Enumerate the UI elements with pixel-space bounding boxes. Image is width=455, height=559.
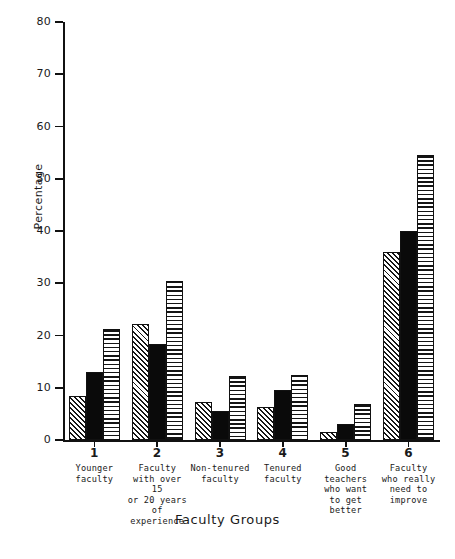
x-category-description-line: with over 15 [126,474,189,495]
x-category-description: Non-tenuredfaculty [189,463,252,484]
bar-group [132,22,183,440]
bar-group [320,22,371,440]
y-tick-label: 60 [21,121,51,132]
x-category-description-line: teachers [314,474,377,485]
x-category-description-line: who want [314,484,377,495]
x-category-label: 5Goodteacherswho wantto get better [314,446,377,516]
x-category-description: Goodteacherswho wantto get better [314,463,377,516]
y-tick-mark [55,178,63,180]
plot-area: 01020304050607080 [63,22,440,440]
bar-horizontal [166,281,183,440]
y-tick-mark [55,126,63,128]
x-category-number: 5 [314,446,377,460]
y-tick-label: 70 [21,68,51,79]
bar-horizontal [417,155,434,440]
y-tick-label: 40 [21,225,51,236]
x-category-description-line: Tenured [252,463,315,474]
bar-solid [337,424,354,440]
y-tick-label: 20 [21,330,51,341]
x-category-number: 1 [63,446,126,460]
x-category-description: Youngerfaculty [63,463,126,484]
y-tick-mark [55,230,63,232]
bar-solid [274,390,291,440]
y-tick-label: 0 [21,434,51,445]
x-category-description-line: who really [377,474,440,485]
x-category-description-line: faculty [189,474,252,485]
bar-diagonal [320,432,337,440]
bar-diagonal [383,252,400,440]
y-tick-label: 50 [21,173,51,184]
bar-group [383,22,434,440]
x-category-number: 6 [377,446,440,460]
bar-horizontal [229,376,246,440]
bar-solid [400,231,417,440]
bar-diagonal [132,324,149,440]
bar-group [195,22,246,440]
x-category-description-line: Non-tenured [189,463,252,474]
x-category-number: 2 [126,446,189,460]
y-axis-title: Percentage [32,137,45,257]
bar-diagonal [195,402,212,440]
bar-horizontal [354,404,371,440]
x-axis-title: Faculty Groups [0,512,455,527]
bar-group [69,22,120,440]
y-tick-mark [55,387,63,389]
x-category-description-line: Faculty [126,463,189,474]
x-category-description-line: need to [377,484,440,495]
y-tick-mark [55,282,63,284]
x-category-description-line: or 20 years [126,495,189,506]
x-category-label: 4Tenuredfaculty [252,446,315,484]
y-tick-label: 10 [21,382,51,393]
bar-horizontal [103,329,120,440]
y-tick-mark [55,439,63,441]
y-tick-mark [55,21,63,23]
x-category-label: 6Facultywho reallyneed toimprove [377,446,440,505]
y-tick-mark [55,335,63,337]
x-category-description: Facultywho reallyneed toimprove [377,463,440,505]
x-category-label: 3Non-tenuredfaculty [189,446,252,484]
x-category-description-line: faculty [252,474,315,485]
x-category-number: 4 [252,446,315,460]
bar-solid [212,411,229,440]
x-category-description-line: Younger [63,463,126,474]
bar-chart: Percentage 01020304050607080 1Youngerfac… [0,0,455,559]
x-category-label: 1Youngerfaculty [63,446,126,484]
x-axis-line [63,440,440,442]
x-category-number: 3 [189,446,252,460]
bar-group [257,22,308,440]
x-category-description-line: Faculty [377,463,440,474]
y-tick-label: 30 [21,277,51,288]
bar-horizontal [291,375,308,440]
x-category-description-line: improve [377,495,440,506]
bar-diagonal [257,407,274,440]
x-category-description-line: faculty [63,474,126,485]
x-category-description-line: Good [314,463,377,474]
y-tick-mark [55,73,63,75]
bar-groups [63,22,440,440]
bar-diagonal [69,396,86,440]
bar-solid [86,372,103,440]
y-tick-label: 80 [21,16,51,27]
bar-solid [149,344,166,440]
x-category-description: Tenuredfaculty [252,463,315,484]
